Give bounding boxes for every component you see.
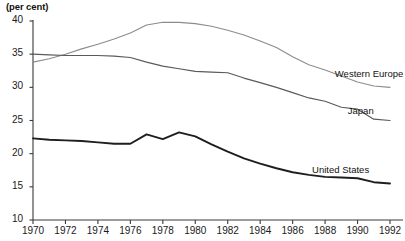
- series-label-japan: Japan: [348, 105, 374, 116]
- y-tick-label: 10: [3, 213, 23, 224]
- x-tick-label: 1992: [373, 225, 405, 236]
- x-tick-label: 1970: [16, 225, 50, 236]
- line-chart-plot: [0, 0, 405, 241]
- x-tick-label: 1972: [48, 225, 82, 236]
- x-tick-label: 1980: [178, 225, 212, 236]
- chart-figure: (per cent) 40353025201510 19701972197419…: [0, 0, 405, 241]
- x-tick-label: 1990: [341, 225, 375, 236]
- y-tick-label: 25: [3, 114, 23, 125]
- x-tick-label: 1976: [113, 225, 147, 236]
- x-tick-label: 1982: [211, 225, 245, 236]
- series-label-western-europe: Western Europe: [335, 68, 403, 79]
- series-line-japan: [33, 54, 390, 120]
- series-label-united-states: United States: [312, 164, 369, 175]
- x-tick-label: 1986: [276, 225, 310, 236]
- series-line-united-states: [33, 132, 390, 183]
- axis-lines: [33, 20, 403, 220]
- y-tick-label: 30: [3, 80, 23, 91]
- axis-ticks: [30, 21, 391, 224]
- data-series-layer: [33, 22, 390, 183]
- x-tick-label: 1988: [308, 225, 342, 236]
- x-tick-label: 1978: [146, 225, 180, 236]
- y-tick-label: 40: [3, 14, 23, 25]
- x-tick-label: 1974: [81, 225, 115, 236]
- y-tick-label: 35: [3, 47, 23, 58]
- y-tick-label: 20: [3, 147, 23, 158]
- y-tick-label: 15: [3, 180, 23, 191]
- x-tick-label: 1984: [243, 225, 277, 236]
